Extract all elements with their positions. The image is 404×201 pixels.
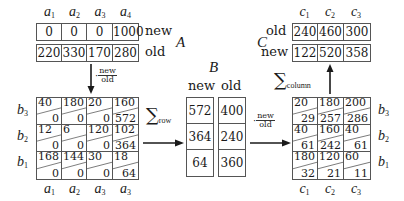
matrix-cell-top-value: 180 — [319, 98, 340, 109]
up-arrow-icon — [325, 64, 335, 94]
label-A: A — [176, 34, 185, 51]
c-new-cell: 122 — [293, 45, 318, 61]
c-new-cell: 358 — [344, 45, 370, 61]
matrix-cell: 4061 — [293, 125, 318, 152]
right-col-labels: c1 c2 c3 — [292, 181, 369, 197]
left-col-labels: a1 a2 a3 a3 — [37, 181, 138, 197]
a-new-label: new — [145, 23, 172, 38]
c-new-label: new — [261, 44, 288, 59]
b-new-cell: 64 — [187, 150, 213, 176]
matrix-cell-bottom-value: 0 — [103, 168, 110, 179]
b-new-vector: 572 364 64 — [186, 97, 214, 177]
matrix-cell: 6011 — [344, 152, 370, 179]
a-new-cell: 1000 — [113, 24, 138, 40]
matrix-cell-top-value: 180 — [63, 98, 84, 109]
matrix-cell: 1440 — [62, 152, 87, 179]
c-old-cell: 460 — [318, 24, 344, 40]
matrix-cell-bottom-value: 0 — [52, 113, 59, 125]
c-old-cell: 240 — [293, 24, 318, 40]
matrix-cell-bottom-value: 64 — [122, 168, 136, 179]
matrix-cell-bottom-value: 0 — [77, 140, 84, 152]
scale-factor-middle: · newold — [253, 112, 275, 129]
c-new-cell: 520 — [318, 45, 344, 61]
matrix-cell-top-value: 40 — [294, 125, 308, 136]
b-old-vector: 400 240 360 — [218, 97, 246, 177]
a-old-cell: 170 — [87, 45, 113, 61]
matrix-cell-bottom-value: 11 — [354, 168, 368, 179]
matrix-cell: 60 — [62, 125, 87, 152]
matrix-cell: 1200 — [87, 125, 113, 152]
a-new-cell: 0 — [62, 24, 87, 40]
a-new-vector: 0 0 0 1000 — [36, 23, 139, 41]
label-B: B — [209, 59, 218, 76]
matrix-cell-top-value: 40 — [345, 125, 359, 136]
left-row-label-b3: b3 — [17, 102, 28, 118]
b-old-cell: 360 — [219, 150, 245, 176]
matrix-cell: 102364 — [113, 125, 138, 152]
matrix-cell-top-value: 200 — [345, 98, 366, 109]
a-old-cell: 330 — [62, 45, 87, 61]
matrix-cell: 300 — [87, 152, 113, 179]
left-col-label: a2 — [62, 181, 87, 197]
matrix-cell: 400 — [37, 98, 62, 125]
matrix-cell: 1864 — [113, 152, 138, 179]
c-new-vector: 122 520 358 — [292, 44, 371, 62]
matrix-cell: 180257 — [318, 98, 344, 125]
right-row-label-b2: b2 — [378, 128, 389, 144]
matrix-cell-top-value: 20 — [294, 98, 308, 109]
matrix-cell: 18032 — [293, 152, 318, 179]
matrix-cell-bottom-value: 0 — [103, 113, 110, 125]
matrix-cell-top-value: 120 — [88, 125, 109, 136]
matrix-cell: 160572 — [113, 98, 138, 125]
matrix-cell-bottom-value: 0 — [52, 140, 59, 152]
right-col-label: c1 — [292, 181, 317, 197]
b-old-cell: 240 — [219, 124, 245, 149]
right-arrow-icon — [250, 133, 292, 143]
matrix-cell-top-value: 168 — [38, 152, 59, 163]
c-old-cell: 300 — [344, 24, 370, 40]
matrix-cell-top-value: 40 — [38, 98, 52, 109]
c-old-label: old — [266, 23, 286, 38]
c-col-label-1: c1 — [292, 4, 317, 20]
matrix-cell: 2029 — [293, 98, 318, 125]
a-new-cell: 0 — [37, 24, 62, 40]
matrix-cell-bottom-value: 0 — [103, 140, 110, 152]
matrix-cell: 200286 — [344, 98, 370, 125]
matrix-cell-bottom-value: 286 — [347, 113, 368, 125]
matrix-cell: 12021 — [318, 152, 344, 179]
matrix-cell: 4061 — [344, 125, 370, 152]
right-col-label: c3 — [343, 181, 369, 197]
matrix-cell-bottom-value: 257 — [320, 113, 341, 125]
matrix-cell-top-value: 160 — [319, 125, 340, 136]
a-col-label-1: a1 — [37, 4, 62, 20]
matrix-cell-bottom-value: 0 — [77, 113, 84, 125]
right-row-label-b1: b1 — [378, 154, 389, 170]
matrix-cell-top-value: 180 — [294, 152, 315, 163]
matrix-cell-top-value: 120 — [319, 152, 340, 163]
matrix-cell: 120 — [37, 125, 62, 152]
a-new-cell: 0 — [87, 24, 113, 40]
matrix-cell-bottom-value: 29 — [301, 113, 315, 125]
matrix-cell-bottom-value: 0 — [52, 168, 59, 179]
matrix-cell: 1680 — [37, 152, 62, 179]
sum-column-label: ∑column — [274, 69, 311, 90]
matrix-cell-top-value: 144 — [63, 152, 84, 163]
left-col-label: a3 — [113, 181, 138, 197]
left-matrix: 4001800200160572120601200102364168014403… — [36, 97, 139, 180]
matrix-cell-bottom-value: 572 — [115, 113, 136, 125]
matrix-cell: 1800 — [62, 98, 87, 125]
c-col-label-2: c2 — [317, 4, 343, 20]
right-row-label-b3: b3 — [378, 102, 389, 118]
matrix-cell-top-value: 160 — [114, 98, 135, 109]
c-column-labels: c1 c2 c3 — [292, 4, 369, 20]
c-col-label-3: c3 — [343, 4, 369, 20]
matrix-cell-top-value: 60 — [345, 152, 359, 163]
a-old-label: old — [145, 44, 165, 59]
scale-factor-left: · newold — [95, 67, 117, 84]
b-new-cell: 364 — [187, 124, 213, 149]
matrix-cell-top-value: 12 — [38, 125, 52, 136]
matrix-cell-top-value: 30 — [88, 152, 102, 163]
b-new-label: new — [188, 78, 215, 93]
b-new-cell: 572 — [187, 98, 213, 124]
matrix-cell: 160242 — [318, 125, 344, 152]
